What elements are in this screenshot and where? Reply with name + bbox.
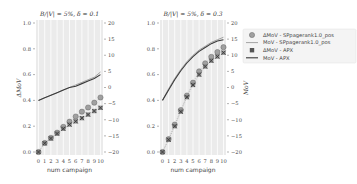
y-left-tick-label: 1.0: [23, 20, 31, 26]
y-left-tick-label: 0.4: [23, 97, 32, 103]
y-right-tick-label: 5: [231, 68, 234, 74]
y-right-tick-label: 10: [108, 52, 115, 58]
figure: B/|V| = 5%, δ = 0.10.00.20.40.60.81.0−20…: [0, 0, 357, 184]
x-tick-label: 7: [80, 158, 83, 164]
subplot-title: B/|V| = 5%, δ = 0.1: [39, 10, 99, 18]
x-tick-label: 6: [74, 158, 77, 164]
x-tick-label: 2: [173, 158, 176, 164]
legend-circle-icon: [249, 32, 254, 37]
y-right-tick-label: 5: [108, 68, 111, 74]
y-right-tick-label: 0: [108, 84, 111, 90]
y-left-tick-label: 0.8: [147, 46, 155, 52]
y-right-tick-label: −20: [231, 149, 242, 155]
x-axis-label: num campaign: [47, 166, 92, 174]
chart-canvas: B/|V| = 5%, δ = 0.10.00.20.40.60.81.0−20…: [0, 0, 357, 184]
y-left-axis-label: ΔMoV: [15, 78, 22, 98]
y-left-tick-label: 1.0: [147, 20, 155, 26]
y-right-tick-label: −5: [231, 100, 239, 106]
y-left-tick-label: 0.6: [147, 71, 155, 77]
y-right-tick-label: 15: [231, 36, 238, 42]
y-left-tick-label: 0.6: [23, 71, 31, 77]
x-tick-label: 0: [161, 158, 164, 164]
x-tick-label: 9: [93, 158, 96, 164]
y-right-tick-label: 0: [231, 84, 234, 90]
y-right-tick-label: 20: [108, 20, 115, 26]
circle-marker: [215, 49, 220, 54]
y-left-tick-label: 0.4: [147, 97, 156, 103]
x-tick-label: 1: [43, 158, 46, 164]
y-left-tick-label: 0.2: [23, 123, 31, 129]
x-tick-label: 1: [167, 158, 170, 164]
circle-marker: [73, 114, 78, 119]
circle-marker: [98, 95, 103, 100]
y-right-tick-label: −15: [231, 133, 242, 139]
circle-marker: [221, 45, 226, 50]
y-left-tick-label: 0.0: [23, 149, 31, 155]
subplot-1: B/|V| = 5%, δ = 0.10.00.20.40.60.81.0−20…: [15, 10, 119, 174]
legend-label: MoV - SPpagerank1.0_pos: [263, 39, 331, 46]
y-right-tick-label: 20: [231, 20, 238, 26]
x-tick-label: 4: [185, 158, 189, 164]
x-tick-label: 6: [197, 158, 200, 164]
x-tick-label: 8: [210, 158, 213, 164]
x-tick-label: 7: [204, 158, 207, 164]
y-right-tick-label: −10: [231, 117, 242, 123]
y-right-tick-label: −15: [108, 133, 119, 139]
x-tick-label: 2: [49, 158, 52, 164]
legend-label: ΔMoV - SPpagerank1.0_pos: [263, 32, 334, 39]
circle-marker: [86, 105, 91, 110]
circle-marker: [79, 109, 84, 114]
subplot-title: B/|V| = 5%, δ = 0.3: [163, 10, 223, 18]
y-left-tick-label: 0.0: [147, 149, 155, 155]
x-tick-label: 3: [179, 158, 182, 164]
legend-label: ΔMoV - APX: [263, 47, 294, 53]
legend-square-icon: [250, 48, 254, 52]
x-tick-label: 5: [68, 158, 71, 164]
x-tick-label: 0: [37, 158, 40, 164]
y-left-tick-label: 0.8: [23, 46, 31, 52]
y-right-tick-label: 10: [231, 52, 238, 58]
x-tick-label: 5: [191, 158, 194, 164]
x-tick-label: 3: [55, 158, 58, 164]
legend-label: MoV - APX: [263, 55, 290, 61]
y-left-tick-label: 0.2: [147, 123, 155, 129]
y-right-tick-label: −5: [108, 100, 116, 106]
circle-marker: [92, 100, 97, 105]
y-right-axis-label: MoV: [242, 80, 249, 96]
y-right-tick-label: −20: [108, 149, 119, 155]
x-tick-label: 10: [97, 158, 104, 164]
y-right-tick-label: 15: [108, 36, 115, 42]
x-tick-label: 4: [62, 158, 66, 164]
x-tick-label: 9: [216, 158, 219, 164]
legend: ΔMoV - SPpagerank1.0_posMoV - SPpagerank…: [243, 29, 356, 63]
x-axis-label: num campaign: [171, 166, 216, 174]
x-tick-label: 10: [220, 158, 227, 164]
y-right-tick-label: −10: [108, 117, 119, 123]
subplot-2: B/|V| = 5%, δ = 0.30.00.20.40.60.81.0−20…: [147, 10, 249, 174]
x-tick-label: 8: [86, 158, 89, 164]
